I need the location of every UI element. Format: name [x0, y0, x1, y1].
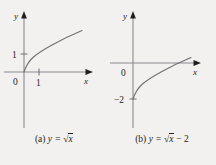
y-axis-arrow-a [21, 11, 27, 19]
caption-b-radical: √x [164, 133, 174, 144]
caption-a-radical: √x [63, 133, 73, 144]
panel-b: y x 0 −2 (b) y = √x − 2 [108, 0, 216, 165]
plot-b: y x 0 −2 [108, 4, 216, 132]
caption-a-label: (a) [35, 134, 46, 144]
plot-a: y x 1 0 1 [0, 4, 108, 132]
figure-container: y x 1 0 1 (a) y = √x [0, 0, 216, 165]
y-axis-label-b: y [122, 11, 127, 21]
y-axis-arrow-b [130, 11, 136, 19]
caption-b-label: (b) [135, 134, 146, 144]
radicand-b: x [169, 133, 174, 144]
caption-b-lhs: y = [149, 134, 162, 144]
y-axis-label-a: y [13, 11, 18, 21]
y-tick-label-minus-two-b: −2 [114, 95, 124, 105]
caption-a-lhs: y = [48, 134, 61, 144]
chart-a-svg: y x 1 0 1 [0, 4, 108, 132]
caption-b-tail: − 2 [176, 134, 188, 144]
y-tick-label-one-a: 1 [12, 50, 17, 60]
radicand-a: x [68, 133, 73, 144]
x-axis-arrow-b [194, 60, 202, 66]
caption-b: (b) y = √x − 2 [108, 133, 216, 144]
x-axis-arrow-a [86, 69, 94, 75]
x-tick-label-one-a: 1 [36, 78, 41, 88]
chart-b-svg: y x 0 −2 [108, 4, 216, 132]
origin-label-a: 0 [13, 77, 18, 87]
x-axis-label-b: x [192, 67, 197, 77]
curve-sqrt-x [24, 31, 82, 72]
origin-label-b: 0 [121, 68, 126, 78]
curve-sqrt-x-minus-2 [133, 58, 191, 99]
x-axis-label-a: x [83, 76, 88, 86]
caption-a: (a) y = √x [0, 133, 108, 144]
panel-a: y x 1 0 1 (a) y = √x [0, 0, 108, 165]
